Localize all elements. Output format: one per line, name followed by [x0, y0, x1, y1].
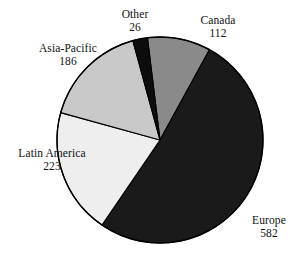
pie-slice-group [57, 37, 263, 243]
slice-label-asia-pacific-value: 186 [18, 55, 118, 68]
slice-label-latin-america-name: Latin America [0, 147, 104, 160]
slice-label-other-value: 26 [100, 21, 170, 34]
slice-label-canada: Canada 112 [183, 14, 253, 40]
slice-label-asia-pacific: Asia-Pacific 186 [18, 42, 118, 68]
slice-label-other-name: Other [100, 8, 170, 21]
slice-label-asia-pacific-name: Asia-Pacific [18, 42, 118, 55]
slice-label-europe: Europe 582 [238, 214, 300, 240]
slice-label-europe-name: Europe [238, 214, 300, 227]
pie-chart: Other 26 Canada 112 Asia-Pacific 186 Lat… [0, 0, 301, 260]
slice-label-latin-america-value: 223 [0, 160, 104, 173]
slice-label-other: Other 26 [100, 8, 170, 34]
slice-label-latin-america: Latin America 223 [0, 147, 104, 173]
slice-label-europe-value: 582 [238, 227, 300, 240]
slice-label-canada-value: 112 [183, 27, 253, 40]
slice-label-canada-name: Canada [183, 14, 253, 27]
